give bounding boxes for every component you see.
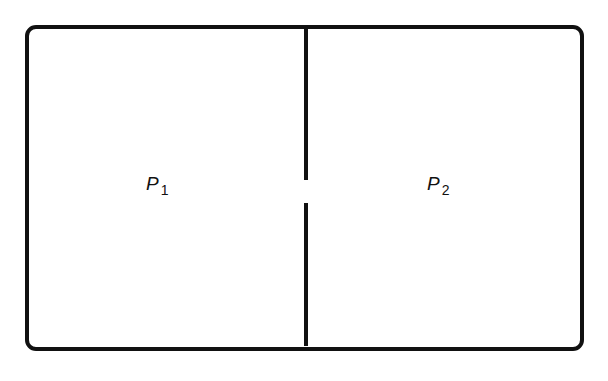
partition-wall-upper	[304, 27, 308, 180]
region-label-p1: P1	[146, 174, 168, 193]
label-p1-main: P	[146, 173, 159, 194]
label-p1-subscript: 1	[161, 182, 169, 198]
region-label-p2: P2	[427, 174, 449, 193]
label-p2-main: P	[427, 173, 440, 194]
partition-wall-lower	[304, 203, 308, 346]
label-p2-subscript: 2	[442, 182, 450, 198]
